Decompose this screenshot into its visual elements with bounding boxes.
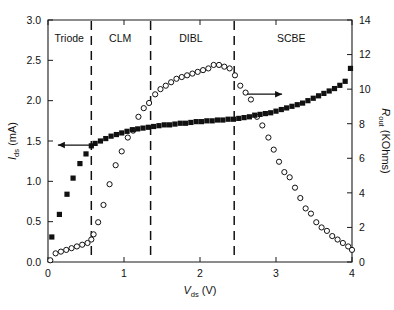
data-point-rout [64, 247, 69, 252]
data-point-ids [300, 100, 305, 105]
axis-title: Rout (KOhms) [377, 108, 392, 174]
data-point-ids [156, 123, 161, 128]
data-point-ids [210, 118, 215, 123]
data-point-rout [163, 83, 168, 88]
data-point-ids [337, 83, 342, 88]
data-point-ids [57, 212, 62, 217]
region-dividers [91, 21, 234, 261]
y-right-tick-label: 4 [359, 187, 365, 199]
data-point-ids [135, 126, 140, 131]
data-point-rout [190, 71, 195, 76]
data-point-ids [295, 102, 300, 107]
data-point-ids [70, 176, 75, 181]
region-label: CLM [109, 32, 131, 44]
y-right-tick-label: 6 [359, 152, 365, 164]
y-left-tick-label: 1.0 [26, 175, 41, 187]
series-ids-points [49, 66, 353, 240]
axis-title: Vds (V) [183, 284, 216, 299]
data-point-ids [162, 122, 167, 127]
region-label: DIBL [179, 32, 203, 44]
data-point-ids [343, 79, 348, 84]
y-left-tick-label: 2.5 [26, 54, 41, 66]
data-point-rout [260, 123, 265, 128]
tick-and-axis-labels: 012340.00.51.01.52.02.53.002468101214Tri… [6, 14, 392, 299]
data-point-ids [108, 134, 113, 139]
data-point-ids [241, 115, 246, 120]
data-point-ids [257, 112, 262, 117]
data-point-rout [58, 249, 63, 254]
data-point-ids [119, 130, 124, 135]
data-point-ids [263, 111, 268, 116]
data-point-rout [324, 228, 329, 233]
data-point-ids [236, 116, 241, 121]
data-point-rout [69, 246, 74, 251]
data-point-ids [289, 104, 294, 109]
data-point-rout [335, 237, 340, 242]
data-point-ids [273, 109, 278, 114]
y-right-tick-label: 10 [359, 83, 371, 95]
data-point-rout [48, 258, 53, 263]
x-tick-label: 4 [349, 267, 355, 279]
data-point-ids [215, 117, 220, 122]
data-point-ids [140, 125, 145, 130]
data-point-ids [268, 110, 273, 115]
figure-container: 012340.00.51.01.52.02.53.002468101214Tri… [0, 0, 394, 310]
data-point-ids [348, 66, 353, 71]
data-point-ids [98, 138, 103, 143]
data-point-rout [238, 83, 243, 88]
data-point-rout [153, 92, 158, 97]
y-right-tick-label: 14 [359, 14, 371, 26]
data-point-rout [206, 66, 211, 71]
data-point-rout [119, 149, 124, 154]
data-point-ids [321, 91, 326, 96]
data-point-rout [53, 251, 58, 256]
x-tick-label: 1 [121, 267, 127, 279]
data-point-rout [266, 135, 271, 140]
y-left-tick-label: 0.5 [26, 215, 41, 227]
data-point-rout [248, 97, 253, 102]
y-right-tick-label: 2 [359, 221, 365, 233]
data-point-rout [232, 73, 237, 78]
data-point-rout [136, 114, 141, 119]
data-point-rout [91, 232, 96, 237]
x-tick-label: 2 [197, 267, 203, 279]
data-point-ids [204, 118, 209, 123]
region-label: Triode [55, 32, 85, 44]
data-point-ids [220, 117, 225, 122]
data-point-ids [252, 113, 257, 118]
data-point-ids [332, 86, 337, 91]
data-point-ids [284, 105, 289, 110]
data-point-rout [107, 182, 112, 187]
scatter-plot: 012340.00.51.01.52.02.53.002468101214Tri… [0, 0, 394, 310]
data-point-ids [226, 117, 231, 122]
y-left-tick-label: 3.0 [26, 14, 41, 26]
region-label: SCBE [277, 32, 306, 44]
data-point-rout [319, 225, 324, 230]
data-point-ids [172, 121, 177, 126]
data-point-rout [340, 240, 345, 245]
data-point-rout [169, 80, 174, 85]
data-point-rout [80, 242, 85, 247]
data-point-ids [146, 125, 151, 130]
data-point-rout [292, 185, 297, 190]
data-point-ids [83, 151, 88, 156]
data-point-ids [124, 129, 129, 134]
data-point-rout [195, 69, 200, 74]
data-point-rout [74, 244, 79, 249]
y-left-tick-label: 2.0 [26, 94, 41, 106]
y-right-tick-label: 12 [359, 48, 371, 60]
data-point-rout [349, 247, 354, 252]
y-left-tick-label: 1.5 [26, 135, 41, 147]
data-point-ids [327, 88, 332, 93]
data-point-ids [183, 121, 188, 126]
data-point-rout [222, 64, 227, 69]
data-point-rout [211, 62, 216, 67]
data-point-ids [64, 192, 69, 197]
data-point-rout [314, 220, 319, 225]
data-point-rout [282, 170, 287, 175]
data-point-rout [184, 73, 189, 78]
data-point-rout [227, 66, 232, 71]
data-point-ids [103, 136, 108, 141]
data-point-ids [167, 122, 172, 127]
data-point-ids [178, 121, 183, 126]
